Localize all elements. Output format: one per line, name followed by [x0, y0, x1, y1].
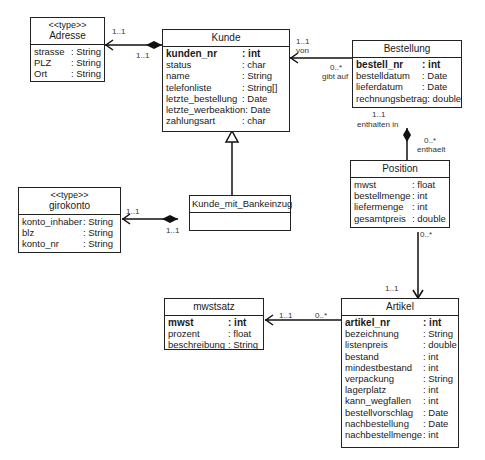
class-artikel: Artikel artikel_nr: int bezeichnung: Str…: [341, 298, 459, 448]
role-label: enthalten in: [357, 120, 398, 129]
class-header: Artikel: [342, 299, 458, 316]
attribute-row: bestellmenge: int: [354, 190, 446, 201]
attribute-list: kunden_nr: int status: char name: String…: [163, 47, 289, 128]
multiplicity-label: 0..*: [424, 136, 436, 145]
role-label: von: [296, 46, 309, 55]
composition-diamond-kunde: [146, 41, 162, 49]
role-label: gibt auf: [322, 72, 348, 81]
class-girokonto: <<type>> girokonto konto_inhaber: String…: [18, 187, 121, 253]
multiplicity-label: 0..*: [330, 63, 342, 72]
attribute-row: prozent: float: [168, 328, 260, 339]
multiplicity-label: 0..*: [315, 311, 327, 320]
class-header: Kunde_mit_Bankeinzug: [190, 196, 290, 213]
class-mwstsatz: mwstsatz mwst: int prozent: float beschr…: [164, 298, 264, 350]
attribute-row: rechnungsbetrag: double: [356, 93, 458, 104]
attribute-row: nachbestellmenge: int: [345, 429, 455, 440]
attribute-row: bestellvorschlag: Date: [345, 407, 455, 418]
multiplicity-label: 0..*: [420, 230, 432, 239]
class-bestellung: Bestellung bestell_nr: int bestelldatum:…: [352, 40, 462, 108]
attribute-list: mwst: float bestellmenge: int liefermeng…: [351, 178, 449, 226]
generalization-triangle: [226, 131, 238, 142]
attribute-list: konto_inhaber: String blz: String konto_…: [19, 215, 120, 252]
attribute-row: zahlungsart: char: [166, 115, 286, 126]
attribute-row-key: bestell_nr: int: [356, 59, 458, 70]
attribute-row: letzte_bestellung: Date: [166, 93, 286, 104]
attribute-row: lieferdatum: Date: [356, 81, 458, 92]
class-header: Kunde: [163, 30, 289, 47]
attribute-list: artikel_nr: int bezeichnung: String list…: [342, 316, 458, 442]
role-label: enthaelt: [417, 145, 445, 154]
attribute-row-key: kunden_nr: int: [166, 48, 286, 59]
attribute-list: mwst: int prozent: float beschreibung: S…: [165, 316, 263, 353]
attribute-row: konto_nr: String: [22, 238, 117, 249]
attribute-list: strasse: String PLZ: String Ort: String: [31, 45, 104, 82]
attribute-row: gesamtpreis: double: [354, 213, 446, 224]
multiplicity-label: 1..1: [279, 311, 292, 320]
attribute-list: bestell_nr: int bestelldatum: Date liefe…: [353, 58, 461, 106]
class-header: <<type>> Adresse: [31, 18, 104, 45]
attribute-row: mindestbestand: int: [345, 362, 455, 373]
attribute-row-key: mwst: int: [168, 317, 260, 328]
multiplicity-label: 1..1: [372, 110, 385, 119]
multiplicity-label: 1..1: [136, 51, 149, 60]
class-name: Artikel: [344, 301, 456, 313]
attribute-row: bezeichnung: String: [345, 328, 455, 339]
attribute-row: konto_inhaber: String: [22, 216, 117, 227]
attribute-row: bestelldatum: Date: [356, 70, 458, 81]
attribute-row: verpackung: String: [345, 373, 455, 384]
attribute-row: Ort: String: [34, 68, 101, 79]
attribute-row: telefonliste: String[]: [166, 82, 286, 93]
multiplicity-label: 1..1: [126, 207, 139, 216]
class-header: Bestellung: [353, 41, 461, 58]
class-name: Bestellung: [355, 43, 459, 55]
attribute-row: mwst: float: [354, 179, 446, 190]
attribute-row: blz: String: [22, 227, 117, 238]
class-header: mwstsatz: [165, 299, 263, 316]
attribute-row: kann_wegfallen: int: [345, 395, 455, 406]
attribute-row: letzte_werbeaktion: Date: [166, 104, 286, 115]
attribute-row: strasse: String: [34, 46, 101, 57]
attribute-row: name: String: [166, 70, 286, 81]
class-position: Position mwst: float bestellmenge: int l…: [350, 160, 450, 228]
class-name: mwstsatz: [167, 301, 261, 313]
attribute-row-key: artikel_nr: int: [345, 317, 455, 328]
multiplicity-label: 1..1: [112, 27, 125, 36]
multiplicity-label: 1..1: [385, 284, 398, 293]
class-header: <<type>> girokonto: [19, 188, 120, 215]
class-name: Kunde: [165, 32, 287, 44]
multiplicity-label: 1..1: [296, 37, 309, 46]
class-name: girokonto: [21, 200, 118, 212]
stereotype: <<type>>: [33, 20, 102, 30]
attribute-row: bestand: int: [345, 351, 455, 362]
attribute-row: liefermenge: int: [354, 201, 446, 212]
attribute-row: lagerplatz: int: [345, 384, 455, 395]
class-kunde-mit-bankeinzug: Kunde_mit_Bankeinzug: [189, 195, 291, 231]
class-name: Adresse: [33, 30, 102, 42]
attribute-row: nachbestellung: Date: [345, 418, 455, 429]
attribute-row: beschreibung: String: [168, 339, 260, 350]
class-name: Position: [353, 163, 447, 175]
class-name: Kunde_mit_Bankeinzug: [192, 198, 288, 210]
class-adresse: <<type>> Adresse strasse: String PLZ: St…: [30, 17, 105, 82]
attribute-row: listenpreis: double: [345, 339, 455, 350]
stereotype: <<type>>: [21, 190, 118, 200]
class-kunde: Kunde kunden_nr: int status: char name: …: [162, 29, 290, 132]
attribute-row: status: char: [166, 59, 286, 70]
composition-diamond-kmb: [162, 215, 178, 223]
class-header: Position: [351, 161, 449, 178]
composition-diamond-bestellung: [403, 128, 411, 142]
multiplicity-label: 1..1: [166, 226, 179, 235]
attribute-row: PLZ: String: [34, 57, 101, 68]
